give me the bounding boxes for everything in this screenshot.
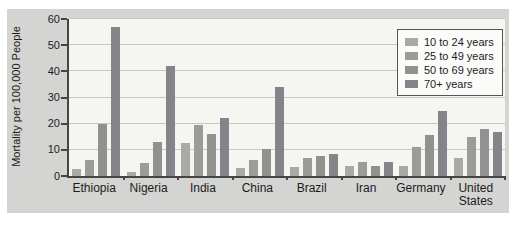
bar-group [69, 19, 124, 176]
bar [194, 125, 203, 176]
bar [358, 162, 367, 176]
legend-swatch [405, 80, 418, 88]
bar [236, 168, 245, 176]
legend-label: 10 to 24 years [424, 36, 494, 48]
bar-group [124, 19, 179, 176]
bar [275, 87, 284, 176]
x-category-label: Nigeria [121, 182, 175, 208]
y-axis-tick [61, 123, 67, 125]
x-axis-tick [341, 176, 343, 180]
x-category-label: United States [449, 182, 503, 208]
legend-label: 70+ years [424, 78, 473, 90]
x-axis-tick [395, 176, 397, 180]
x-axis-tick [177, 176, 179, 180]
y-tick-label: 50 [28, 39, 60, 52]
y-axis-tick [61, 97, 67, 99]
bar [399, 166, 408, 176]
legend-item: 25 to 49 years [405, 49, 502, 63]
bar [262, 149, 271, 176]
bar [425, 135, 434, 176]
bar [111, 27, 120, 176]
bar [480, 129, 489, 176]
legend-label: 25 to 49 years [424, 50, 494, 62]
bar [384, 162, 393, 176]
x-category-label: India [176, 182, 230, 208]
bar [290, 167, 299, 176]
x-category-label: Iran [339, 182, 393, 208]
x-axis-tick [504, 176, 506, 180]
bar [140, 163, 149, 176]
bar [207, 134, 216, 176]
y-tick-label: 10 [28, 143, 60, 156]
x-axis-tick [123, 176, 125, 180]
bar [181, 143, 190, 176]
y-axis-tick [61, 149, 67, 151]
y-axis-tick-labels: 0102030405060 [28, 19, 60, 176]
bar [329, 154, 338, 176]
legend-swatch [405, 38, 418, 46]
x-axis-labels: EthiopiaNigeriaIndiaChinaBrazilIranGerma… [67, 182, 503, 208]
x-axis-tick [450, 176, 452, 180]
x-category-label: Brazil [285, 182, 339, 208]
y-tick-label: 30 [28, 91, 60, 104]
y-axis-tick [61, 44, 67, 46]
legend-item: 10 to 24 years [405, 35, 502, 49]
legend: 10 to 24 years25 to 49 years50 to 69 yea… [397, 29, 503, 96]
bar [438, 111, 447, 176]
bar [127, 172, 136, 176]
x-category-label: Ethiopia [67, 182, 121, 208]
x-axis-tick [286, 176, 288, 180]
bar [345, 166, 354, 176]
x-category-label: China [230, 182, 284, 208]
bar [153, 142, 162, 176]
bar [303, 158, 312, 176]
legend-item: 70+ years [405, 77, 502, 91]
bar [85, 160, 94, 176]
y-axis-tick [61, 175, 67, 177]
x-axis-tick [232, 176, 234, 180]
legend-item: 50 to 69 years [405, 63, 502, 77]
bar [467, 137, 476, 176]
bar [72, 169, 81, 176]
bar [371, 166, 380, 176]
bar [166, 66, 175, 176]
bar-group [178, 19, 233, 176]
bar-group [342, 19, 397, 176]
legend-label: 50 to 69 years [424, 64, 494, 76]
bar [412, 147, 421, 176]
bar [493, 132, 502, 176]
y-axis-tick [61, 18, 67, 20]
bar [249, 160, 258, 176]
y-tick-label: 60 [28, 13, 60, 26]
y-axis-title: Mortality per 100,000 People [10, 17, 25, 177]
y-axis-tick [61, 70, 67, 72]
legend-swatch [405, 66, 418, 74]
bar [316, 156, 325, 176]
y-tick-label: 40 [28, 65, 60, 78]
bar [220, 118, 229, 176]
bar-group [287, 19, 342, 176]
y-tick-label: 20 [28, 117, 60, 130]
bar [454, 158, 463, 176]
figure: Mortality per 100,000 People 01020304050… [0, 0, 517, 227]
x-category-label: Germany [393, 182, 448, 208]
legend-swatch [405, 52, 418, 60]
y-tick-label: 0 [28, 170, 60, 183]
bar [98, 124, 107, 176]
bar-group [233, 19, 288, 176]
